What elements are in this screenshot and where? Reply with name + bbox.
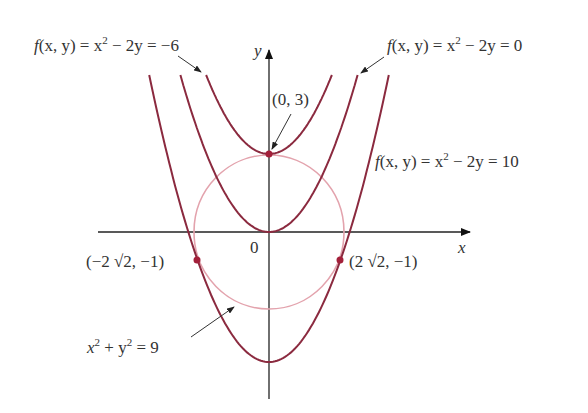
arrow-to-neg6: [178, 56, 201, 72]
point-right: [337, 257, 344, 264]
label-x-axis: x: [458, 239, 466, 256]
point-left: [194, 257, 201, 264]
label-level-10: f(x, y) = x2 − 2y = 10: [375, 153, 519, 170]
label-point-right: (2 √2, −1): [349, 253, 418, 270]
label-point-left: (−2 √2, −1): [86, 253, 164, 270]
label-y-axis: y: [254, 42, 262, 59]
label-circle: x2 + y2 = 9: [87, 339, 159, 356]
arrow-to-point-top: [272, 114, 291, 149]
label-level-0: f(x, y) = x2 − 2y = 0: [387, 37, 522, 54]
arrow-to-circle: [191, 307, 234, 337]
point-top: [266, 151, 273, 158]
label-point-top: (0, 3): [272, 91, 309, 108]
label-level-neg6: f(x, y) = x2 − 2y = −6: [34, 37, 179, 54]
label-origin: 0: [250, 239, 259, 256]
arrow-to-0: [361, 57, 384, 73]
